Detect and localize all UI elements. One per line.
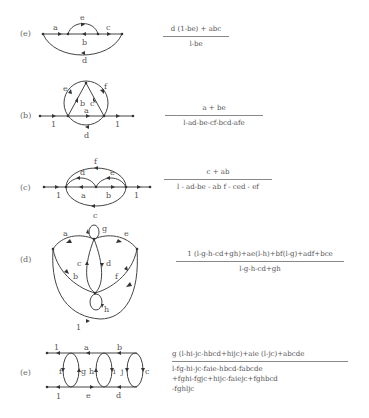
figure-d: (d) a e g c d b f h 1	[0, 225, 369, 345]
edge-label-b: b	[106, 191, 111, 200]
edge-label-c: c	[93, 211, 98, 220]
edge-label-a: a	[84, 343, 89, 352]
numerator: 1 (l-g-h-cd+gh)+ae(l-h)+bf(l-g)+adf+bce	[176, 249, 344, 261]
figure-c: (c) f d e 1 a b 1 c c + ab l - ad-be - a…	[0, 155, 369, 225]
edge-label-1-out: 1	[134, 191, 139, 200]
edge-label-b: b	[82, 38, 87, 47]
edge-label-c: c	[77, 259, 82, 268]
edge-label-g: g	[102, 224, 107, 233]
denominator: l-be	[163, 37, 229, 49]
edge-label-c: c	[145, 367, 150, 376]
edge-label-a: a	[53, 23, 58, 32]
signal-flow-graph: a e g c d b f h 1	[0, 225, 369, 345]
edge-label-e: e	[110, 168, 115, 177]
edge-label-1-in: 1	[56, 191, 61, 200]
edge-label-f: f	[104, 82, 108, 91]
edge-label-d: d	[106, 259, 111, 268]
edge-label-h: h	[89, 367, 94, 376]
figure-e1: (e) a e b c d d (1-be) + abc l-be	[0, 0, 369, 75]
denominator-line-1: l-fg-hi-jc-faie-hbcd-fabcde	[172, 362, 348, 374]
edge-label-b: b	[80, 99, 85, 108]
edge-label-e: e	[124, 229, 129, 238]
edge-label-f: f	[115, 272, 119, 281]
edge-label-1: 1	[76, 323, 81, 332]
edge-label-e: e	[80, 13, 85, 22]
numerator: a + be	[165, 103, 263, 115]
edge-label-1-in: 1	[51, 120, 56, 129]
denominator-line-3: -fghljc	[172, 384, 348, 394]
edge-label-e: e	[86, 391, 91, 400]
edge-label-a: a	[63, 229, 68, 238]
numerator: g (l-hi-jc-hbcd+hijc)+aie (l-jc)+abcde	[172, 349, 348, 361]
edge-label-j: j	[120, 367, 123, 376]
denominator: l-g-h-cd+gh	[176, 262, 344, 274]
transfer-function: a + be l-ad-be-cf-bcd-afe	[165, 103, 263, 128]
denominator-line-2: +fghi-fgjc+hijc-faiejc+fghbcd	[172, 374, 348, 384]
edge-label-1-bottom: 1	[56, 392, 61, 401]
figure-b: (b) 1 a b c e f d 1 a + be l-ad-be-cf-bc…	[0, 75, 369, 155]
transfer-function: g (l-hi-jc-hbcd+hijc)+aie (l-jc)+abcde l…	[172, 349, 348, 394]
numerator: d (1-be) + abc	[163, 24, 229, 36]
denominator: l - ad-be - ab f - ced - ef	[164, 180, 272, 192]
edge-label-d: d	[82, 56, 87, 65]
denominator: l-ad-be-cf-bcd-afe	[165, 116, 263, 128]
edge-label-c: c	[90, 99, 95, 108]
edge-label-d: d	[116, 391, 121, 400]
transfer-function: d (1-be) + abc l-be	[163, 24, 229, 49]
edge-label-e: e	[63, 84, 68, 93]
edge-label-a: a	[81, 191, 86, 200]
numerator: c + ab	[164, 167, 272, 179]
edge-label-d: d	[84, 131, 89, 140]
edge-label-1-top: 1	[54, 343, 59, 352]
edge-label-1-out: 1	[115, 120, 120, 129]
transfer-function: 1 (l-g-h-cd+gh)+ae(l-h)+bf(l-g)+adf+bce …	[176, 249, 344, 274]
edge-label-g: g	[81, 367, 86, 376]
edge-label-b: b	[73, 272, 78, 281]
edge-label-h: h	[104, 305, 109, 314]
figure-e2: (e) 1 a b f g h i j c 1 e d g (l-hi-jc-h…	[0, 345, 369, 418]
edge-label-d: d	[80, 168, 85, 177]
edge-label-f: f	[94, 157, 98, 166]
transfer-function: c + ab l - ad-be - ab f - ced - ef	[164, 167, 272, 192]
edge-label-c: c	[106, 23, 111, 32]
edge-label-i: i	[113, 367, 116, 376]
edge-label-b: b	[117, 343, 122, 352]
